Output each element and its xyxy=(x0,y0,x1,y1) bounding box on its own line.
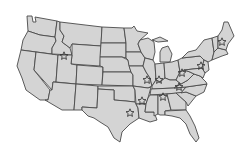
state-south-dakota xyxy=(100,43,126,58)
state-maine xyxy=(218,22,234,50)
state-new-mexico xyxy=(74,84,98,110)
state-montana xyxy=(60,22,102,48)
state-wyoming xyxy=(71,44,101,66)
state-kansas xyxy=(102,72,133,86)
state-nebraska xyxy=(100,57,131,72)
states xyxy=(17,16,234,142)
state-florida xyxy=(165,110,199,142)
state-colorado xyxy=(76,65,103,85)
state-north-dakota xyxy=(101,27,126,43)
us-map xyxy=(0,0,249,163)
